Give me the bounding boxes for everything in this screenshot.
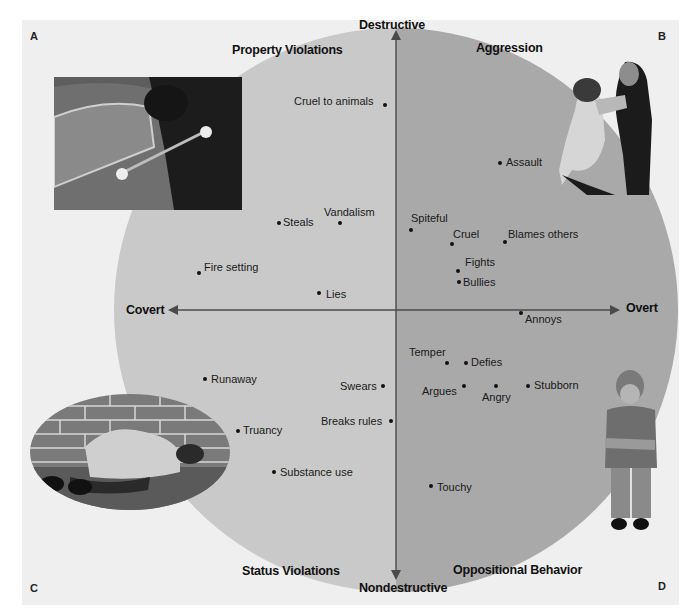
point-argues [462,384,466,388]
axis-label-covert: Covert [126,303,164,317]
point-defies [464,361,468,365]
axis-label-overt: Overt [626,301,658,315]
quadrant-title-oppositional-behavior: Oppositional Behavior [453,563,582,577]
point-fights [456,269,460,273]
label-fire-setting: Fire setting [204,261,258,273]
quadrant-title-property-violations: Property Violations [232,43,343,57]
defiant-boy-photo [597,368,667,538]
point-swears [381,384,385,388]
label-truancy: Truancy [243,424,282,436]
point-temper [445,361,449,365]
point-lies [317,291,321,295]
label-lies: Lies [326,288,346,300]
point-blames-others [503,240,507,244]
point-breaks-rules [389,419,393,423]
label-annoys: Annoys [525,313,562,325]
point-runaway [203,377,207,381]
label-defies: Defies [471,356,502,368]
point-angry [494,384,498,388]
label-steals: Steals [283,216,314,228]
label-angry: Angry [482,391,511,403]
point-stubborn [526,384,530,388]
label-spiteful: Spiteful [411,212,448,224]
label-blames-others: Blames others [508,228,578,240]
label-breaks-rules: Breaks rules [321,415,382,427]
point-assault [498,161,502,165]
point-cruel-to-animals [383,103,387,107]
label-stubborn: Stubborn [534,379,579,391]
axis-label-destructive: Destructive [359,20,425,32]
runaway-sleeping-photo [30,392,230,512]
label-swears: Swears [340,380,377,392]
label-assault: Assault [506,156,542,168]
label-fights: Fights [465,256,495,268]
label-vandalism: Vandalism [324,206,375,218]
quadrant-title-status-violations: Status Violations [242,564,340,578]
corner-label-b: B [658,30,666,42]
point-annoys [519,311,523,315]
label-substance-use: Substance use [280,466,353,478]
corner-label-c: C [30,582,38,594]
point-fire-setting [197,271,201,275]
label-cruel: Cruel [453,228,479,240]
point-bullies [457,280,461,284]
corner-label-d: D [658,580,666,592]
label-cruel-to-animals: Cruel to animals [294,95,373,107]
point-vandalism [338,221,342,225]
axis-label-nondestructive: Nondestructive [359,581,447,595]
fighting-girls-photo [557,60,667,195]
car-theft-photo [54,77,242,210]
point-touchy [429,484,433,488]
point-spiteful [409,228,413,232]
label-touchy: Touchy [437,481,472,493]
diagram-panel: A B C D Destructive Nondestructive Cover… [22,20,679,605]
label-runaway: Runaway [211,373,257,385]
point-cruel [450,242,454,246]
corner-label-a: A [30,30,38,42]
label-bullies: Bullies [463,276,495,288]
label-argues: Argues [422,385,457,397]
label-temper: Temper [409,346,446,358]
quadrant-title-aggression: Aggression [476,41,543,55]
point-steals [277,221,281,225]
point-truancy [236,429,240,433]
point-substance-use [272,470,276,474]
